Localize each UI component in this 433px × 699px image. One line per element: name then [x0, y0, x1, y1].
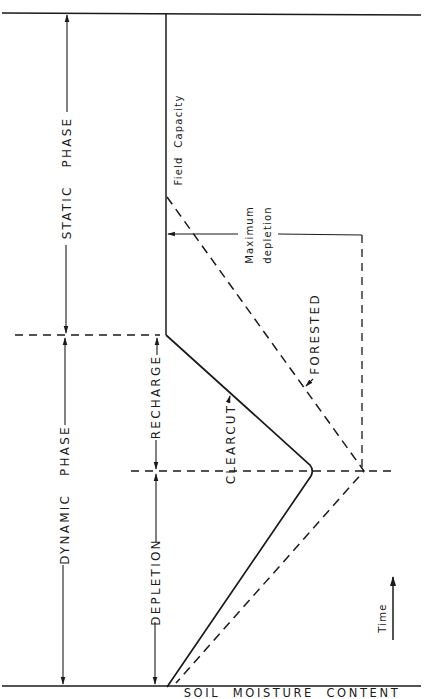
time-label: Time: [377, 603, 388, 633]
x-axis-label: SOIL MOISTURE CONTENT: [184, 686, 401, 699]
field-capacity-label: Field Capacity: [173, 94, 184, 185]
soil-moisture-diagram: STATIC PHASE DYNAMIC PHASE RECHARGE DEPL…: [0, 0, 433, 699]
forested-curve: [167, 197, 364, 683]
clearcut-pointer: [228, 396, 230, 403]
dynamic-phase-label: DYNAMIC PHASE: [58, 425, 72, 564]
clearcut-curve: [166, 335, 312, 687]
forested-pointer: [306, 379, 313, 386]
max-depletion-label-line1: Maximum: [244, 206, 255, 264]
max-depletion-dimension: [168, 234, 362, 468]
depletion-label: DEPLETION: [149, 538, 163, 625]
static-phase-label: STATIC PHASE: [60, 117, 74, 239]
max-depletion-label-line2: depletion: [262, 206, 273, 264]
recharge-label: RECHARGE: [149, 355, 163, 439]
clearcut-label: CLEARCUT: [224, 404, 238, 485]
forested-label: FORESTED: [308, 293, 322, 375]
top-boundary-line: [2, 13, 421, 15]
